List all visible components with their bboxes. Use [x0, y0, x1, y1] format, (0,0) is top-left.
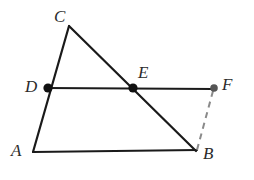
segment-fb-dashed	[197, 91, 213, 150]
point-marker-f	[210, 84, 218, 92]
vertex-label-b: B	[203, 145, 213, 162]
vertex-label-c: C	[54, 8, 65, 25]
segment-ab	[33, 150, 197, 152]
point-marker-d	[43, 83, 52, 92]
geometry-figure: C D E F A B	[0, 0, 254, 180]
point-marker-e	[128, 83, 137, 92]
vertex-label-f: F	[222, 76, 232, 93]
figure-canvas	[0, 0, 254, 180]
vertex-label-e: E	[138, 64, 148, 81]
vertex-label-d: D	[25, 78, 37, 95]
vertex-label-a: A	[11, 142, 21, 159]
